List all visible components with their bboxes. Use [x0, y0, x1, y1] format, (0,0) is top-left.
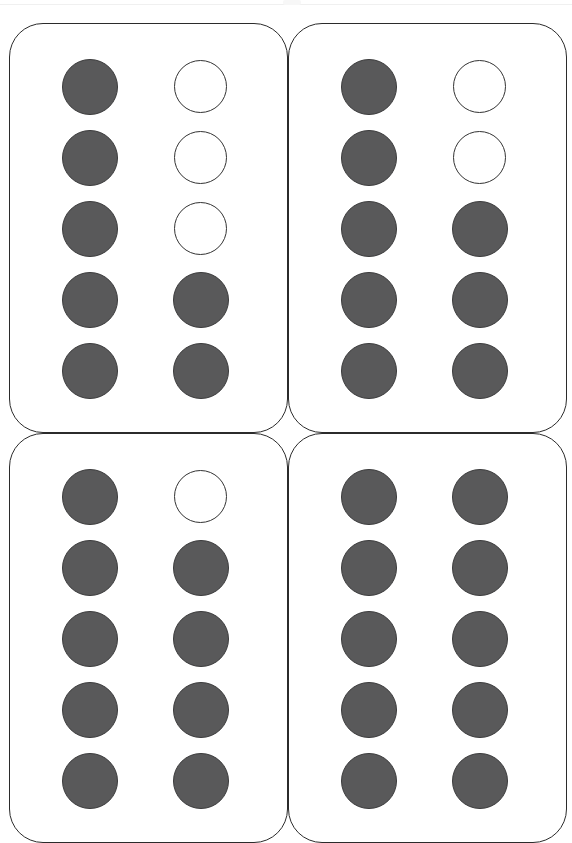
- ten-frame-cell[interactable]: [173, 59, 229, 115]
- filled-counter-dot[interactable]: [62, 753, 118, 809]
- filled-counter-dot[interactable]: [62, 611, 118, 667]
- ten-frame-cell[interactable]: [341, 611, 397, 667]
- ten-frame-cell[interactable]: [62, 59, 118, 115]
- empty-counter-dot[interactable]: [174, 470, 227, 523]
- ten-frame-cell[interactable]: [173, 753, 229, 809]
- ten-frame-card-bottom-left[interactable]: [9, 433, 288, 843]
- ten-frame-cell[interactable]: [62, 611, 118, 667]
- filled-counter-dot[interactable]: [452, 469, 508, 525]
- filled-counter-dot[interactable]: [341, 540, 397, 596]
- ten-frame-cell[interactable]: [62, 201, 118, 257]
- filled-counter-dot[interactable]: [62, 130, 118, 186]
- filled-counter-dot[interactable]: [62, 540, 118, 596]
- ten-frame-row: [289, 675, 566, 746]
- ten-frame-cell[interactable]: [62, 682, 118, 738]
- ten-frame-cell[interactable]: [452, 272, 508, 328]
- ten-frame-cell[interactable]: [62, 469, 118, 525]
- ten-frame-cell[interactable]: [452, 753, 508, 809]
- ten-frame-row: [289, 265, 566, 336]
- ten-frame-cell[interactable]: [62, 272, 118, 328]
- ten-frame-cell[interactable]: [452, 130, 508, 186]
- filled-counter-dot[interactable]: [62, 272, 118, 328]
- filled-counter-dot[interactable]: [341, 272, 397, 328]
- ten-frame-cell[interactable]: [173, 130, 229, 186]
- ten-frame-cell[interactable]: [452, 201, 508, 257]
- filled-counter-dot[interactable]: [173, 753, 229, 809]
- ten-frame-cell[interactable]: [452, 469, 508, 525]
- ten-frame-grid: [10, 24, 287, 432]
- filled-counter-dot[interactable]: [452, 343, 508, 399]
- filled-counter-dot[interactable]: [452, 611, 508, 667]
- filled-counter-dot[interactable]: [341, 59, 397, 115]
- filled-counter-dot[interactable]: [173, 272, 229, 328]
- ten-frame-cell[interactable]: [341, 272, 397, 328]
- ten-frame-cell[interactable]: [62, 753, 118, 809]
- ten-frame-card-top-left[interactable]: [9, 23, 288, 433]
- ten-frame-row: [289, 336, 566, 407]
- empty-counter-dot[interactable]: [453, 60, 506, 113]
- filled-counter-dot[interactable]: [173, 682, 229, 738]
- ten-frame-card-bottom-right[interactable]: [288, 433, 567, 843]
- filled-counter-dot[interactable]: [62, 59, 118, 115]
- ten-frame-row: [10, 533, 287, 604]
- ten-frame-cell[interactable]: [341, 130, 397, 186]
- ten-frame-row: [289, 194, 566, 265]
- filled-counter-dot[interactable]: [173, 540, 229, 596]
- ten-frame-cell[interactable]: [62, 540, 118, 596]
- filled-counter-dot[interactable]: [341, 611, 397, 667]
- ten-frame-row: [10, 194, 287, 265]
- empty-counter-dot[interactable]: [453, 131, 506, 184]
- ten-frame-cell[interactable]: [341, 682, 397, 738]
- filled-counter-dot[interactable]: [452, 201, 508, 257]
- ten-frame-cell[interactable]: [452, 611, 508, 667]
- filled-counter-dot[interactable]: [452, 540, 508, 596]
- ten-frame-cell[interactable]: [173, 272, 229, 328]
- filled-counter-dot[interactable]: [341, 753, 397, 809]
- filled-counter-dot[interactable]: [341, 201, 397, 257]
- ten-frame-row: [289, 123, 566, 194]
- filled-counter-dot[interactable]: [341, 469, 397, 525]
- ten-frame-row: [289, 604, 566, 675]
- empty-counter-dot[interactable]: [174, 202, 227, 255]
- filled-counter-dot[interactable]: [341, 682, 397, 738]
- ten-frame-cell[interactable]: [62, 343, 118, 399]
- filled-counter-dot[interactable]: [452, 753, 508, 809]
- filled-counter-dot[interactable]: [173, 611, 229, 667]
- ten-frame-cell[interactable]: [452, 343, 508, 399]
- filled-counter-dot[interactable]: [341, 130, 397, 186]
- filled-counter-dot[interactable]: [62, 469, 118, 525]
- ten-frame-row: [10, 265, 287, 336]
- ten-frame-cell[interactable]: [173, 201, 229, 257]
- ten-frame-grid: [10, 434, 287, 842]
- ten-frame-cell[interactable]: [341, 753, 397, 809]
- ten-frame-row: [10, 675, 287, 746]
- ten-frame-cell[interactable]: [341, 469, 397, 525]
- ten-frame-card-top-right[interactable]: [288, 23, 567, 433]
- filled-counter-dot[interactable]: [62, 682, 118, 738]
- ten-frame-row: [289, 746, 566, 817]
- empty-counter-dot[interactable]: [174, 131, 227, 184]
- ten-frame-cell[interactable]: [173, 343, 229, 399]
- ten-frame-cell[interactable]: [452, 682, 508, 738]
- filled-counter-dot[interactable]: [62, 343, 118, 399]
- filled-counter-dot[interactable]: [173, 343, 229, 399]
- ten-frame-cell[interactable]: [341, 201, 397, 257]
- ten-frame-cell[interactable]: [173, 611, 229, 667]
- ten-frame-cell[interactable]: [173, 469, 229, 525]
- ten-frame-cell[interactable]: [173, 682, 229, 738]
- ten-frame-cell[interactable]: [62, 130, 118, 186]
- filled-counter-dot[interactable]: [452, 682, 508, 738]
- ten-frame-row: [10, 462, 287, 533]
- ten-frame-cell[interactable]: [341, 343, 397, 399]
- filled-counter-dot[interactable]: [452, 272, 508, 328]
- ten-frame-cell[interactable]: [452, 540, 508, 596]
- empty-counter-dot[interactable]: [174, 60, 227, 113]
- ten-frame-cell[interactable]: [341, 540, 397, 596]
- ten-frame-cell[interactable]: [173, 540, 229, 596]
- ten-frame-row: [10, 123, 287, 194]
- ten-frame-cell[interactable]: [341, 59, 397, 115]
- filled-counter-dot[interactable]: [62, 201, 118, 257]
- filled-counter-dot[interactable]: [341, 343, 397, 399]
- ten-frame-cell[interactable]: [452, 59, 508, 115]
